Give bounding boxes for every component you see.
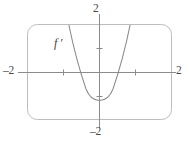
graph-figure: 2 –2 –2 2 f ′ <box>0 0 189 143</box>
curve-label-f-prime: f ′ <box>54 37 62 49</box>
axis-label-left: –2 <box>3 65 14 77</box>
axis-label-top: 2 <box>93 3 99 15</box>
graph-canvas <box>0 0 189 143</box>
axis-label-bottom: –2 <box>90 126 101 138</box>
axis-label-right: 2 <box>176 65 182 77</box>
